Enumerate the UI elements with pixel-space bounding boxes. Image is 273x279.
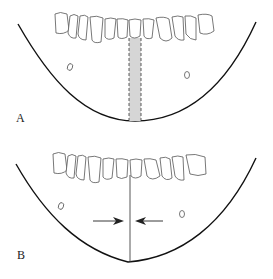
foramen-right-b	[180, 211, 185, 218]
panel-label-b: B	[17, 248, 25, 263]
panel-b	[16, 153, 256, 263]
teeth-row-a	[55, 13, 214, 43]
teeth-row-b	[53, 153, 206, 183]
panel-a	[18, 13, 256, 122]
diagram	[0, 0, 273, 279]
arrow-left-icon	[93, 217, 124, 225]
midline-zone	[129, 38, 141, 121]
arrow-right-icon	[135, 217, 163, 225]
foramen-left-b	[57, 202, 64, 210]
foramen-right-a	[185, 72, 190, 79]
panel-label-a: A	[16, 111, 25, 126]
foramen-left-a	[66, 63, 73, 71]
